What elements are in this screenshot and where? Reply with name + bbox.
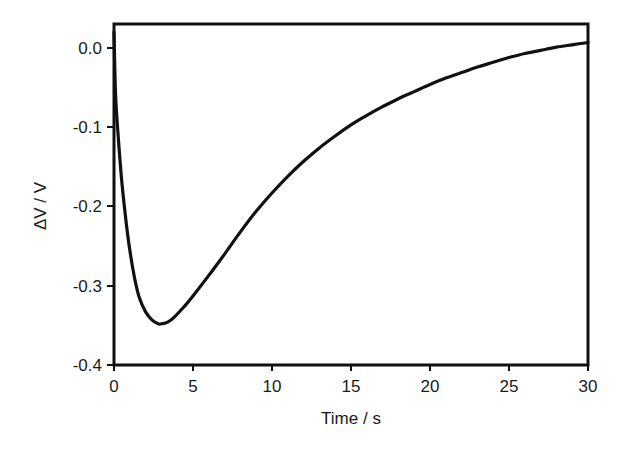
y-tick-label: -0.3: [73, 277, 102, 296]
y-tick-label: 0.0: [78, 39, 102, 58]
y-axis: 0.0 -0.1 -0.2 -0.3 -0.4: [73, 39, 114, 375]
y-tick-label: -0.4: [73, 356, 102, 375]
x-tick-label: 25: [500, 377, 519, 396]
x-tick-label: 15: [342, 377, 361, 396]
x-tick-label: 10: [263, 377, 282, 396]
x-tick-label: 5: [188, 377, 197, 396]
x-axis: 0 5 10 15 20 25 30: [109, 365, 597, 396]
x-tick-label: 30: [579, 377, 598, 396]
y-axis-label: ΔV / V: [31, 181, 50, 230]
x-tick-label: 20: [421, 377, 440, 396]
y-tick-label: -0.2: [73, 197, 102, 216]
x-tick-label: 0: [109, 377, 118, 396]
chart: 0.0 -0.1 -0.2 -0.3 -0.4 0 5 10 15 20 25 …: [0, 0, 630, 450]
x-axis-label: Time / s: [321, 409, 381, 428]
plot-frame: [114, 24, 588, 365]
data-line: [114, 32, 588, 324]
y-tick-label: -0.1: [73, 118, 102, 137]
